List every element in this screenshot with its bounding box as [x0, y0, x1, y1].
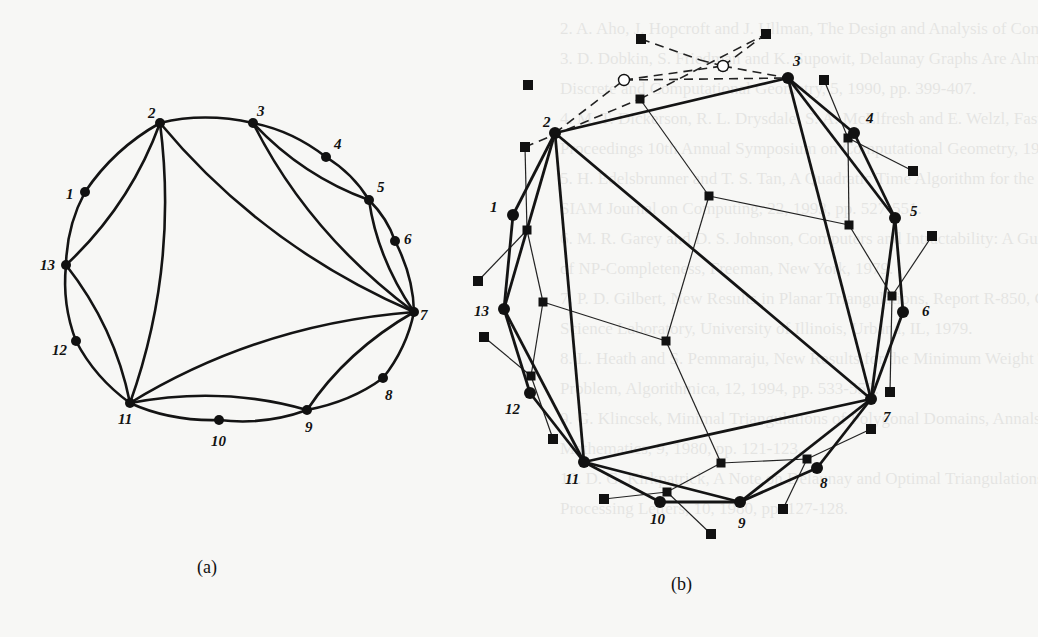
edge [219, 410, 307, 421]
vertex-node [155, 118, 165, 128]
leaf-point [885, 387, 895, 397]
vertex-label: 5 [910, 203, 918, 219]
vertex-label: 1 [66, 186, 74, 202]
vertex-node [71, 336, 81, 346]
edge [160, 118, 253, 123]
vertex-node [782, 72, 794, 84]
leaf-point [706, 529, 716, 539]
steiner-point [636, 95, 645, 104]
vertex-label: 11 [565, 471, 579, 487]
vertex-label: 12 [52, 342, 68, 358]
thick-edge [584, 462, 660, 502]
steiner-point [663, 488, 672, 497]
vertex-label: 9 [305, 419, 313, 435]
vertex-node [654, 496, 666, 508]
steiner-point [662, 337, 671, 346]
vertex-node [507, 209, 519, 221]
vertex-label: 9 [738, 515, 746, 531]
vertex-node [848, 127, 860, 139]
thin-edge [709, 196, 849, 225]
vertex-label: 10 [650, 511, 666, 527]
vertex-label: 12 [505, 401, 521, 417]
steiner-point [888, 292, 897, 301]
steiner-point [845, 221, 854, 230]
vertex-node [125, 398, 135, 408]
vertex-node [321, 152, 331, 162]
vertex-node [865, 393, 877, 405]
vertex-label: 6 [404, 231, 412, 247]
edge [130, 396, 307, 410]
vertex-label: 13 [40, 257, 56, 273]
graph-a: 12345678910111213 [40, 103, 428, 449]
thin-edge [666, 341, 721, 463]
vertex-label: 13 [474, 303, 490, 319]
thick-edge [788, 78, 854, 133]
edge [395, 241, 414, 312]
steiner-point [705, 192, 714, 201]
caption-b: (b) [671, 574, 692, 595]
vertex-label: 2 [542, 114, 551, 130]
vertex-node [378, 373, 388, 383]
vertex-label: 1 [490, 199, 498, 215]
vertex-label: 4 [865, 110, 874, 126]
edge [130, 123, 165, 403]
edge [130, 312, 414, 403]
leaf-point [778, 504, 788, 514]
edge [253, 123, 326, 157]
dashed-edge [641, 39, 700, 60]
thin-edge [640, 99, 709, 196]
vertex-node [390, 236, 400, 246]
leaf-point [636, 34, 646, 44]
figure: 12345678910111213 12345678910111213 (a) … [0, 0, 1038, 637]
vertex-node [897, 306, 909, 318]
vertex-node [549, 127, 561, 139]
dashed-edge [723, 34, 766, 66]
leaf-point [520, 142, 530, 152]
thin-edge [667, 492, 711, 534]
vertex-label: 10 [211, 433, 227, 449]
thin-edge [667, 463, 721, 492]
thick-edge [555, 78, 788, 133]
vertex-node [578, 456, 590, 468]
vertex-label: 6 [922, 303, 930, 319]
leaf-point [473, 276, 483, 286]
vertex-label: 5 [377, 179, 385, 195]
edge [160, 123, 414, 312]
dashed-edge [640, 34, 766, 99]
vertex-node [409, 307, 419, 317]
edge [253, 123, 369, 200]
thin-edge [807, 429, 871, 459]
vertex-node [61, 260, 71, 270]
leaf-point [866, 424, 876, 434]
vertex-label: 4 [333, 136, 342, 152]
vertex-label: 7 [420, 307, 428, 323]
vertex-label: 2 [147, 105, 156, 121]
edge [66, 265, 130, 403]
hollow-point [718, 61, 729, 72]
thick-edge [788, 78, 871, 399]
vertex-node [214, 415, 224, 425]
leaf-point [523, 80, 533, 90]
vertex-label: 3 [792, 53, 801, 69]
caption-a: (a) [197, 557, 217, 578]
thin-edge [666, 196, 709, 341]
vertex-node [248, 118, 258, 128]
vertex-label: 8 [385, 387, 393, 403]
leaf-point [479, 332, 489, 342]
leaf-point [761, 29, 771, 39]
vertex-label: 8 [820, 475, 828, 491]
vertex-node [734, 496, 746, 508]
edge [85, 123, 160, 192]
vertex-node [302, 405, 312, 415]
vertex-node [811, 462, 823, 474]
leaf-point [927, 231, 937, 241]
edge [130, 403, 219, 420]
vertex-node [80, 187, 90, 197]
vertex-label: 11 [118, 411, 132, 427]
steiner-point [539, 298, 548, 307]
dashed-edge [624, 78, 788, 80]
vertex-node [889, 212, 901, 224]
graph-b: 12345678910111213 [473, 29, 937, 539]
leaf-point [599, 494, 609, 504]
thin-edge [848, 138, 849, 225]
